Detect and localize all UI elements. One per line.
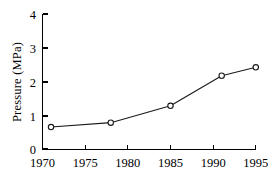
x-tick-label-1980: 1980: [115, 156, 140, 170]
x-tick-label-1975: 1975: [73, 156, 98, 170]
x-tick-label-1970: 1970: [30, 156, 55, 170]
x-tick-label-1995: 1995: [243, 156, 268, 170]
y-tick-label-4: 4: [30, 8, 37, 22]
x-tick-label-1990: 1990: [201, 156, 226, 170]
line-chart: Pressure (MPa) 4 3 2 1 0 1970 1975 1980 …: [0, 0, 275, 181]
data-point-marker: [108, 120, 113, 125]
series-line-pressure: [51, 67, 256, 127]
y-tick-label-0: 0: [30, 143, 36, 157]
data-point-marker: [48, 124, 53, 129]
y-axis-title: Pressure (MPa): [10, 42, 24, 122]
data-point-marker: [253, 65, 258, 70]
x-tick-label-1985: 1985: [158, 156, 183, 170]
y-tick-label-1: 1: [30, 110, 36, 124]
data-point-marker: [168, 103, 173, 108]
y-tick-label-2: 2: [30, 76, 36, 90]
chart-figure: Pressure (MPa) 4 3 2 1 0 1970 1975 1980 …: [0, 0, 275, 181]
data-point-marker: [219, 73, 224, 78]
y-tick-label-3: 3: [30, 42, 36, 56]
